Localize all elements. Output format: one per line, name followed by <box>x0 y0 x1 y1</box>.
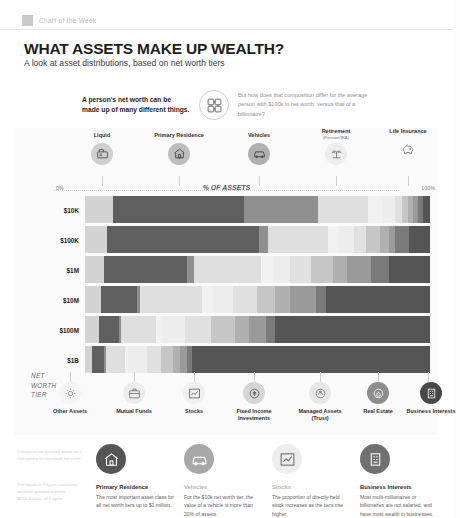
legend-item-mutual-funds[interactable]: Mutual Funds <box>106 382 162 415</box>
bar-segment[interactable] <box>316 286 326 313</box>
bar-segment[interactable] <box>194 256 261 283</box>
bar-segment[interactable] <box>261 256 273 283</box>
bar-segment[interactable] <box>113 196 244 223</box>
legend-item-other-assets[interactable]: Other Assets <box>42 382 98 415</box>
insight-card: Primary ResidenceThe most important asse… <box>96 444 184 518</box>
bar-segment[interactable] <box>213 286 234 313</box>
bar-segment[interactable] <box>101 286 137 313</box>
bar-segment[interactable] <box>104 256 187 283</box>
brand-label: Chart of the Week <box>39 17 96 24</box>
real-estate-coin-icon <box>367 382 389 404</box>
bar-segment[interactable] <box>211 316 235 343</box>
bar-segment[interactable] <box>259 226 268 253</box>
insight-card-body: For the $10k net worth tier, the value o… <box>184 493 264 518</box>
legend-item-stocks[interactable]: Stocks <box>169 382 219 415</box>
bar-segment[interactable] <box>326 286 430 313</box>
bar-segment[interactable] <box>339 226 355 253</box>
bar-segment[interactable] <box>106 346 125 373</box>
palm-tree-icon <box>325 143 347 165</box>
legend-item-primary-residence[interactable]: Primary Residence <box>139 132 219 165</box>
bar-segment[interactable] <box>85 196 113 223</box>
leader-line <box>194 372 195 382</box>
business-circle-icon <box>360 444 390 474</box>
bar-segment[interactable] <box>311 256 333 283</box>
chart-panel: Liquid Primary Residence Vehicles <box>14 128 439 435</box>
bar-segment[interactable] <box>366 226 380 253</box>
leader-line <box>254 372 255 382</box>
bar-segment[interactable] <box>275 316 430 343</box>
bar-segment[interactable] <box>290 256 311 283</box>
bar-row: $100K <box>85 226 430 253</box>
legend-item-managed-assets[interactable]: Managed Assets (Trust) <box>292 382 348 422</box>
bar-segment[interactable] <box>185 316 211 343</box>
insight-card-title: Stocks <box>272 484 352 490</box>
bar-segment[interactable] <box>233 286 257 313</box>
bar-segment[interactable] <box>140 286 202 313</box>
legend-item-business-interests[interactable]: Business Interests <box>400 382 460 415</box>
bar-segment[interactable] <box>92 346 104 373</box>
bar-segment[interactable] <box>273 256 290 283</box>
bar-segment[interactable] <box>368 196 384 223</box>
bar-segment[interactable] <box>395 226 409 253</box>
bar-segment[interactable] <box>85 226 107 253</box>
bar-segment[interactable] <box>85 346 92 373</box>
bar-segment[interactable] <box>173 346 180 373</box>
intro-callout: A person's net worth can be made up of m… <box>82 90 382 120</box>
legend-label: Business Interests <box>400 408 460 415</box>
legend-item-liquid[interactable]: Liquid <box>72 132 132 165</box>
legend-item-vehicles[interactable]: Vehicles <box>229 132 289 165</box>
bar-segment[interactable] <box>121 316 156 343</box>
bond-coin-icon <box>243 382 265 404</box>
legend-label: Other Assets <box>42 408 98 415</box>
bar-segment[interactable] <box>128 346 147 373</box>
legend-item-fixed-income[interactable]: Fixed Income Investments <box>224 382 284 422</box>
bar-segment[interactable] <box>290 286 316 313</box>
bar-segment[interactable] <box>180 346 187 373</box>
bar-segment[interactable] <box>275 286 291 313</box>
legend-item-life-insurance[interactable]: Life Insurance <box>382 128 434 160</box>
bar-row: $10M <box>85 286 430 313</box>
legend-item-retirement[interactable]: Retirement (Pension/IRA) <box>304 128 368 165</box>
bar-segment[interactable] <box>347 256 371 283</box>
bar-segment[interactable] <box>85 256 104 283</box>
bar-segment[interactable] <box>249 316 266 343</box>
bar-segment[interactable] <box>187 256 194 283</box>
bar-segment[interactable] <box>147 346 161 373</box>
insight-card-title: Vehicles <box>184 484 264 490</box>
insight-card-title: Business Interests <box>360 484 440 490</box>
bar-segment[interactable] <box>85 286 101 313</box>
bar-segment[interactable] <box>371 256 388 283</box>
bar-segment[interactable] <box>333 256 347 283</box>
bar-segment[interactable] <box>354 226 366 253</box>
bar-segment[interactable] <box>99 316 120 343</box>
bar-segment[interactable] <box>268 226 328 253</box>
bar-segment[interactable] <box>318 196 368 223</box>
bar-segment[interactable] <box>395 196 402 223</box>
insight-card-title: Primary Residence <box>96 484 176 490</box>
bar-segment[interactable] <box>192 346 430 373</box>
legend-label: Fixed Income Investments <box>224 408 284 422</box>
insight-card-body: Most multi-millionaires or billionaires … <box>360 493 440 518</box>
bar-segment[interactable] <box>85 316 99 343</box>
bar-segment[interactable] <box>257 286 274 313</box>
bar-segment[interactable] <box>266 316 275 343</box>
bar-segment[interactable] <box>383 196 395 223</box>
bar-segment[interactable] <box>423 196 430 223</box>
bar-segment[interactable] <box>107 226 259 253</box>
bar-segment[interactable] <box>244 196 318 223</box>
bar-segment[interactable] <box>389 226 396 253</box>
bar-segment[interactable] <box>380 226 389 253</box>
bar-segment[interactable] <box>389 256 430 283</box>
bar-segment[interactable] <box>161 346 173 373</box>
bar-segment[interactable] <box>409 226 430 253</box>
legend-item-real-estate[interactable]: Real Estate <box>352 382 404 415</box>
bar-segment[interactable] <box>235 316 249 343</box>
leader-line <box>428 372 429 382</box>
bar-segment[interactable] <box>202 286 212 313</box>
bar-segment[interactable] <box>156 316 163 343</box>
bar-segment[interactable] <box>163 316 185 343</box>
legend-label: Liquid <box>72 132 132 139</box>
legend-label: Retirement <box>304 128 368 135</box>
bar-segment[interactable] <box>328 226 338 253</box>
car-circle-icon <box>184 444 214 474</box>
